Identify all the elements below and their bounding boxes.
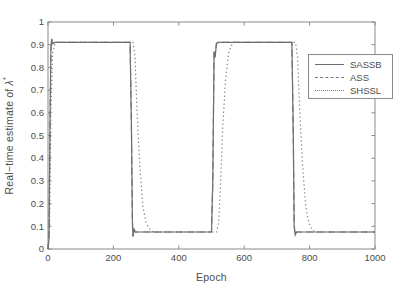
y-tick-label: 0.5 (31, 130, 44, 141)
x-tick-label: 0 (45, 252, 50, 263)
y-tick-label: 0.8 (31, 62, 44, 73)
x-tick-label: 600 (236, 252, 252, 263)
legend-label-shssl: SHSSL (350, 84, 381, 97)
x-tick-label: 1000 (364, 252, 385, 263)
x-axis-label: Epoch (48, 271, 375, 283)
y-tick-label: 0.2 (31, 198, 44, 209)
lambda-superscript: * (1, 77, 10, 80)
lambda-symbol: λ (3, 80, 15, 85)
y-tick-label: 0.4 (31, 152, 44, 163)
x-tick-label: 200 (105, 252, 121, 263)
y-tick-label: 0.7 (31, 84, 44, 95)
legend-entry-shssl: SHSSL (315, 84, 392, 97)
dashed-line-sample (315, 77, 344, 78)
dotted-line-sample (315, 90, 344, 91)
x-tick-label: 800 (302, 252, 318, 263)
legend-label-sassb: SASSB (350, 58, 382, 71)
plot-canvas: 0200400600800100000.10.20.30.40.50.60.70… (0, 0, 410, 296)
x-tick-label: 400 (171, 252, 187, 263)
legend-label-ass: ASS (350, 71, 369, 84)
legend-entry-ass: ASS (315, 71, 392, 84)
figure: 0200400600800100000.10.20.30.40.50.60.70… (0, 0, 410, 296)
y-tick-label: 1 (39, 16, 44, 27)
y-tick-label: 0.6 (31, 107, 44, 118)
y-tick-label: 0 (39, 243, 44, 254)
legend-box: SASSB ASS SHSSL (308, 54, 393, 99)
y-tick-label: 0.3 (31, 175, 44, 186)
legend-entry-sassb: SASSB (315, 58, 392, 71)
y-tick-label: 0.1 (31, 221, 44, 232)
y-axis-label: Real−time estimate of λ* (1, 70, 15, 202)
solid-line-sample (315, 64, 344, 65)
y-tick-label: 0.9 (31, 39, 44, 50)
y-axis-label-text: Real−time estimate of (3, 85, 15, 194)
